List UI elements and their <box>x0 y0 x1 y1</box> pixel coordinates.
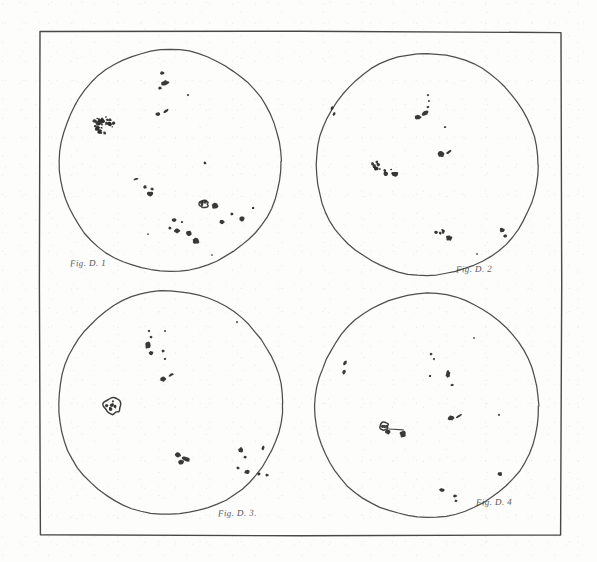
sunspot <box>427 94 430 96</box>
sunspot <box>498 472 502 476</box>
sunspot <box>187 94 189 96</box>
sunspot <box>230 213 233 216</box>
sunspot <box>342 369 346 375</box>
sunspot <box>238 447 243 452</box>
sunspot <box>445 370 450 379</box>
sunspot-cluster <box>90 114 116 136</box>
sunspot <box>244 470 249 474</box>
sunspot <box>143 185 147 188</box>
sunspot <box>148 330 151 332</box>
sunspot <box>236 467 239 470</box>
sunspot-cluster <box>434 229 446 236</box>
sunspot <box>168 227 171 230</box>
sunspot <box>429 375 431 377</box>
sunspot <box>400 431 406 438</box>
sunspot <box>181 221 183 223</box>
sunspot <box>243 456 246 459</box>
solar-limb-circle <box>316 54 538 276</box>
sunspot <box>162 349 165 352</box>
sunspot <box>164 358 167 360</box>
sunspot <box>446 149 452 154</box>
sunspot <box>392 172 399 177</box>
sunspot-penumbral-ring <box>199 200 208 207</box>
sunspot <box>252 207 255 209</box>
sunspot <box>428 100 430 102</box>
sunspot <box>156 112 161 116</box>
sunspot <box>178 460 184 465</box>
sunspot <box>212 203 219 209</box>
sunspot <box>453 495 457 498</box>
sunspot <box>193 238 200 244</box>
solar-disk-1 <box>59 49 281 271</box>
solar-limb-circle <box>315 293 539 517</box>
sunspot <box>343 360 348 366</box>
sunspot <box>415 115 422 120</box>
sunspot <box>500 228 505 233</box>
sunspot <box>163 108 169 114</box>
sunspot <box>172 218 177 222</box>
caption-figure-1: Fig. D. 1 <box>70 258 106 269</box>
sunspot <box>385 430 390 435</box>
sunspot <box>473 337 475 339</box>
solar-disk-3 <box>59 291 283 515</box>
sunspot <box>158 87 162 90</box>
sunspot <box>204 162 207 165</box>
plate-border <box>39 31 561 536</box>
sunspot <box>219 220 224 224</box>
caption-figure-2: Fig. D. 2 <box>456 264 492 275</box>
plate-canvas <box>0 0 597 562</box>
sunspot-group <box>330 94 507 255</box>
sunspot <box>476 253 478 255</box>
sunspot <box>503 234 507 237</box>
sunspot <box>444 126 446 128</box>
sunspot <box>438 151 445 157</box>
sunspot <box>421 110 430 117</box>
solar-limb-circle <box>59 49 281 271</box>
sunspot <box>455 500 458 503</box>
sunspot-group <box>90 71 254 255</box>
sunspot <box>332 112 336 117</box>
sunspot <box>145 341 152 349</box>
sunspot <box>150 336 153 339</box>
caption-figure-3: Fig. D. 3. <box>218 508 257 519</box>
engraved-plate: Fig. D. 1Fig. D. 2Fig. D. 3.Fig. D. 4 <box>0 0 597 562</box>
sunspot <box>439 488 445 492</box>
sunspot <box>427 106 430 108</box>
solar-disk-2 <box>316 54 538 276</box>
sunspot <box>450 384 453 386</box>
sunspot <box>186 231 192 236</box>
sunspot <box>455 413 462 418</box>
sunspot <box>448 415 455 420</box>
sunspot-group <box>342 337 502 502</box>
sunspot <box>261 445 265 450</box>
sunspot <box>257 473 260 476</box>
sunspot <box>446 235 452 240</box>
sunspot <box>498 414 500 416</box>
sunspot-light-bridge <box>389 429 404 430</box>
sunspot <box>174 228 180 233</box>
sunspot <box>236 321 238 323</box>
sunspot-penumbral-ring <box>103 397 121 414</box>
caption-figure-4: Fig. D. 4 <box>476 497 512 508</box>
sunspot <box>433 358 435 360</box>
sunspot <box>149 351 154 355</box>
solar-disk-4 <box>315 293 539 517</box>
sunspot <box>147 192 153 197</box>
sunspot <box>265 474 268 477</box>
sunspot-cluster <box>370 159 383 172</box>
sunspot <box>147 233 149 235</box>
sunspot <box>175 452 181 457</box>
sunspot <box>211 254 213 256</box>
solar-limb-circle <box>59 291 283 515</box>
sunspot <box>168 373 174 378</box>
sunspot-penumbral-ring <box>380 422 388 430</box>
solar-disks-group <box>59 49 539 517</box>
sunspot <box>160 376 166 381</box>
sunspot-group <box>103 321 269 477</box>
sunspot <box>150 187 153 190</box>
sunspot <box>160 71 164 74</box>
sunspot <box>164 330 166 332</box>
sunspot <box>133 177 139 180</box>
sunspot <box>239 216 244 221</box>
sunspot <box>161 80 171 87</box>
